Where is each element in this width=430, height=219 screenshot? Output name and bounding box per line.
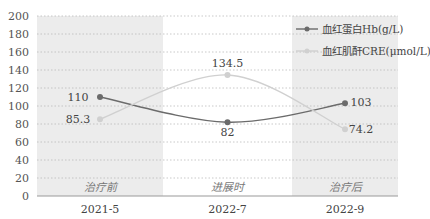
legend-label: 血红蛋白Hb(g/L) (322, 23, 403, 35)
y-tick-label: 0 (22, 190, 29, 203)
x-tick-label: 2022-7 (208, 203, 247, 216)
legend-swatch-marker (305, 27, 310, 32)
data-point (97, 94, 103, 100)
data-point (225, 72, 231, 78)
x-axis-labels: 2021-52022-72022-9 (81, 203, 365, 216)
data-label: 134.5 (212, 57, 244, 70)
y-tick-label: 20 (15, 172, 29, 185)
y-tick-label: 40 (15, 154, 29, 167)
x-tick-label: 2021-5 (81, 203, 120, 216)
data-point (342, 126, 348, 132)
data-point (97, 116, 103, 122)
line-chart: 020406080100120140160180200 2021-52022-7… (0, 0, 430, 219)
data-label: 74.2 (349, 123, 374, 136)
y-tick-label: 180 (8, 28, 29, 41)
x-tick-label: 2022-9 (326, 203, 365, 216)
band-label: 进展时 (211, 181, 246, 194)
legend-label: 血红肌酐CRE(μmol/L) (322, 45, 430, 57)
band-label: 治疗后 (329, 181, 364, 194)
y-tick-label: 120 (8, 82, 29, 95)
y-tick-label: 60 (15, 136, 29, 149)
data-point (342, 100, 348, 106)
data-point (225, 119, 231, 125)
legend-swatch-marker (305, 49, 310, 54)
y-tick-label: 140 (8, 64, 29, 77)
y-tick-label: 200 (8, 10, 29, 23)
data-label: 110 (68, 91, 89, 104)
y-tick-label: 160 (8, 46, 29, 59)
data-label: 85.3 (66, 113, 91, 126)
y-tick-label: 80 (15, 118, 29, 131)
data-label: 82 (221, 126, 235, 139)
band-label: 治疗前 (84, 181, 119, 194)
y-axis-ticks: 020406080100120140160180200 (8, 10, 29, 203)
y-tick-label: 100 (8, 100, 29, 113)
data-label: 103 (351, 96, 372, 109)
